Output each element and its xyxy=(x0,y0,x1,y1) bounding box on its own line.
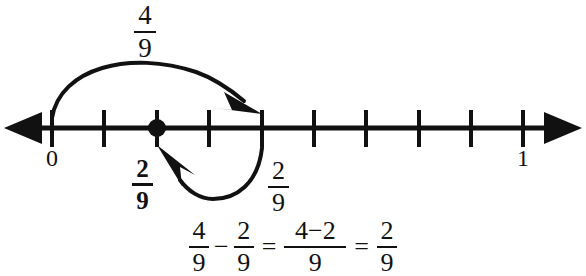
top-arc-denominator: 9 xyxy=(138,35,152,62)
equation-term-2: 2 9 xyxy=(234,218,254,276)
arrow-right-icon xyxy=(544,112,582,144)
bottom-arc-numerator: 2 xyxy=(272,158,285,184)
arrow-left-icon xyxy=(4,112,42,144)
point-numerator: 2 xyxy=(136,156,149,181)
equation-term-4-denominator: 9 xyxy=(381,250,394,276)
top-arc-fraction-label: 4 9 xyxy=(134,2,156,62)
curved-arrow-right-icon xyxy=(52,63,244,118)
equation-term-1-denominator: 9 xyxy=(193,250,206,276)
equation-term-4-numerator: 2 xyxy=(381,218,394,244)
equation-term-2-numerator: 2 xyxy=(237,218,250,244)
equation-term-2-denominator: 9 xyxy=(237,250,250,276)
tick-label-one: 1 xyxy=(508,145,538,172)
equation-term-1: 4 9 xyxy=(189,218,209,276)
equation-operator-equals-1: = xyxy=(262,232,277,262)
bottom-arc-denominator: 9 xyxy=(272,190,285,216)
equation: 4 9 − 2 9 = 4−2 9 = 2 9 xyxy=(186,218,400,276)
equation-operator-minus: − xyxy=(214,232,229,262)
bottom-arc-fraction-label: 2 9 xyxy=(268,158,289,216)
dot-marker-icon xyxy=(148,119,166,137)
equation-term-3-denominator: 9 xyxy=(309,250,322,276)
point-fraction-bar xyxy=(132,183,153,186)
equation-term-3: 4−2 9 xyxy=(284,218,346,276)
point-denominator: 9 xyxy=(136,188,149,213)
curved-arrow-left-head-icon xyxy=(157,145,195,186)
equation-term-1-numerator: 4 xyxy=(193,218,206,244)
equation-operator-equals-2: = xyxy=(354,232,369,262)
tick-label-zero: 0 xyxy=(37,145,67,172)
point-fraction-label: 2 9 xyxy=(132,156,153,213)
figure-canvas: 4 9 2 9 2 9 0 1 4 9 − 2 9 = 4−2 9 xyxy=(0,0,586,276)
equation-term-4: 2 9 xyxy=(377,218,397,276)
top-arc-numerator: 4 xyxy=(138,2,152,29)
equation-term-3-numerator: 4−2 xyxy=(295,218,336,244)
